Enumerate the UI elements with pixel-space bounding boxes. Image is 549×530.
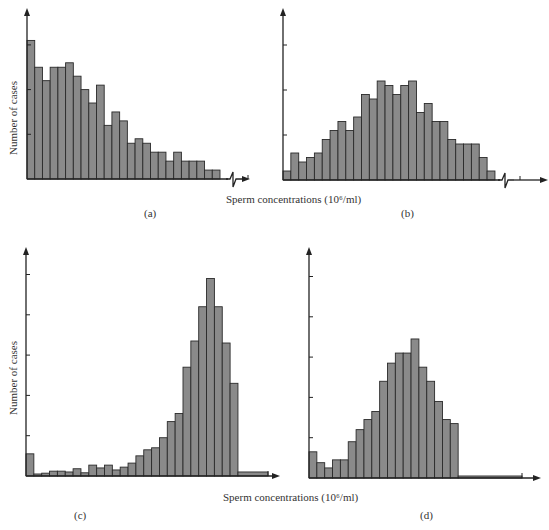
histogram-bar <box>427 381 435 478</box>
histogram-bar <box>166 161 174 179</box>
arrow-up-icon <box>24 8 30 16</box>
arrow-right-icon <box>242 176 250 182</box>
x-axis-label-top: Sperm concentrations (10⁶/ml) <box>226 193 362 206</box>
histogram-bar <box>471 144 479 180</box>
histogram-bar <box>317 463 325 478</box>
histogram-bar <box>291 153 299 180</box>
histogram-bar <box>307 158 315 181</box>
arrow-right-icon <box>533 475 541 481</box>
axis-break-icon <box>498 173 514 188</box>
histogram-bar <box>440 122 448 181</box>
histogram-bar <box>325 468 333 478</box>
histogram-bar <box>395 353 403 478</box>
histogram-bar <box>136 456 144 476</box>
histogram-bar <box>174 152 182 179</box>
panel-label-b: (b) <box>401 207 414 220</box>
axis-break-icon <box>226 172 242 187</box>
histogram-bar <box>212 170 220 179</box>
histogram-bar <box>97 468 105 476</box>
histogram-bar <box>416 113 424 181</box>
histogram-bar <box>159 438 167 476</box>
histogram-bar <box>356 430 364 478</box>
histogram-bar <box>222 343 230 476</box>
histogram-bar <box>50 67 58 179</box>
panel-c-chart <box>23 247 280 479</box>
histogram-bar <box>393 95 401 181</box>
histogram-bar <box>58 67 66 179</box>
histogram-bar <box>479 158 487 181</box>
panel-a-chart <box>24 8 250 187</box>
histogram-bar <box>167 422 175 476</box>
histogram-bar <box>112 470 120 476</box>
histogram-bar <box>333 460 341 478</box>
histogram-bar <box>120 121 128 179</box>
arrow-right-icon <box>540 177 548 183</box>
histogram-bar <box>42 81 50 179</box>
histogram-bar <box>230 383 238 476</box>
histogram-bar <box>175 414 183 476</box>
histogram-bar <box>50 471 58 476</box>
histogram-bar <box>135 139 143 179</box>
histogram-bar <box>89 103 97 179</box>
arrow-up-icon <box>280 8 286 16</box>
histogram-bar <box>112 112 120 179</box>
histogram-bar <box>340 460 348 478</box>
histogram-bar <box>299 162 307 180</box>
histogram-bar <box>401 86 409 181</box>
histogram-bar <box>105 465 113 476</box>
y-axis-label-top: Number of cases <box>7 81 19 155</box>
histogram-bar <box>197 161 205 179</box>
histogram-bar <box>309 452 317 478</box>
histogram-bar <box>189 161 197 179</box>
histogram-bar <box>57 471 65 476</box>
histogram-bar <box>348 442 356 478</box>
histogram-bar <box>362 95 370 181</box>
histogram-bar <box>322 140 330 181</box>
histogram-bar <box>205 170 213 179</box>
histogram-bar <box>385 86 393 181</box>
panel-label-a: (a) <box>144 207 157 220</box>
panel-d-chart <box>306 247 541 481</box>
histogram-bar <box>35 67 43 179</box>
histogram-bar <box>181 161 189 179</box>
x-axis-label-bottom: Sperm concentrations (10⁶/ml) <box>223 491 359 504</box>
histogram-bar <box>183 367 191 476</box>
histogram-bar <box>450 424 458 478</box>
histogram-bar <box>144 450 152 476</box>
histogram-bar <box>89 465 97 476</box>
histogram-bar <box>143 143 151 179</box>
histogram-bar <box>411 339 419 478</box>
histogram-bar <box>338 122 346 181</box>
histogram-bar <box>464 144 472 180</box>
histogram-bar <box>346 131 354 181</box>
panel-label-c: (c) <box>74 509 87 522</box>
histogram-bar <box>388 363 396 478</box>
histogram-bar <box>435 401 443 478</box>
y-axis-label-bottom: Number of cases <box>7 341 19 415</box>
arrow-up-icon <box>306 247 312 255</box>
histogram-bar <box>283 171 291 180</box>
histogram-bar <box>104 125 112 179</box>
histogram-bar <box>81 90 89 179</box>
histogram-bar <box>432 122 440 181</box>
histogram-bar <box>27 40 35 179</box>
histogram-bar <box>380 381 388 478</box>
histogram-bar <box>364 420 372 478</box>
histogram-bar <box>487 171 495 180</box>
histogram-bar <box>424 104 432 181</box>
histogram-bar <box>73 469 81 476</box>
histogram-bar <box>96 85 104 179</box>
histogram-bar <box>158 152 166 179</box>
histogram-bar <box>127 143 135 179</box>
histogram-bar <box>66 63 74 179</box>
histogram-figure: Number of cases Number of cases Sperm co… <box>0 0 549 530</box>
histogram-bar <box>26 454 34 476</box>
panel-b-chart <box>280 8 548 188</box>
histogram-bar <box>151 152 159 179</box>
histogram-bar <box>207 279 215 476</box>
histogram-bar <box>409 81 417 180</box>
arrow-up-icon <box>23 247 29 255</box>
histogram-bar <box>419 367 427 478</box>
histogram-bar <box>191 341 199 476</box>
histogram-bar <box>199 307 207 476</box>
